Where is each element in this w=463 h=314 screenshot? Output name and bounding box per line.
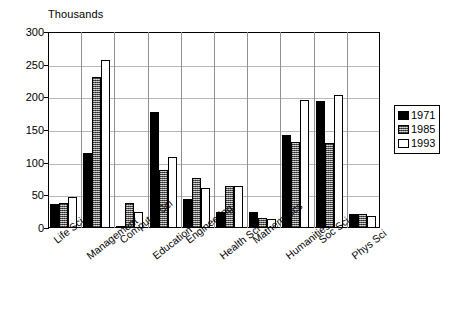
y-axis-tick bbox=[44, 228, 49, 229]
bar[interactable] bbox=[83, 153, 92, 228]
bar-group bbox=[214, 32, 247, 228]
legend-item[interactable]: 1993 bbox=[398, 136, 435, 150]
legend-label: 1971 bbox=[411, 109, 435, 121]
legend-label: 1993 bbox=[411, 137, 435, 149]
bar-group bbox=[114, 32, 147, 228]
legend-swatch-icon bbox=[398, 125, 409, 134]
bar-group bbox=[81, 32, 114, 228]
bar-group bbox=[181, 32, 214, 228]
group-separator bbox=[181, 32, 182, 228]
group-separator bbox=[280, 32, 281, 228]
group-separator bbox=[247, 32, 248, 228]
group-separator bbox=[214, 32, 215, 228]
y-axis-tick-label: 0 bbox=[4, 222, 44, 234]
bar[interactable] bbox=[101, 60, 110, 228]
y-axis-labels: 050100150200250300 bbox=[0, 32, 44, 228]
bar[interactable] bbox=[50, 204, 59, 228]
legend-item[interactable]: 1985 bbox=[398, 122, 435, 136]
legend-swatch-icon bbox=[398, 139, 409, 148]
bar[interactable] bbox=[92, 77, 101, 228]
bar-group bbox=[314, 32, 347, 228]
bar[interactable] bbox=[234, 186, 243, 228]
group-separator bbox=[148, 32, 149, 228]
legend-label: 1985 bbox=[411, 123, 435, 135]
bar[interactable] bbox=[316, 101, 325, 228]
bars-layer bbox=[48, 32, 380, 228]
axis-unit-label: Thousands bbox=[48, 8, 103, 20]
legend: 1971 1985 1993 bbox=[394, 105, 440, 154]
bar[interactable] bbox=[325, 143, 334, 228]
y-axis-tick-label: 300 bbox=[4, 26, 44, 38]
group-separator bbox=[347, 32, 348, 228]
bar-chart: Thousands 050100150200250300 Life SciMan… bbox=[0, 0, 463, 314]
bar-group bbox=[48, 32, 81, 228]
legend-swatch-icon bbox=[398, 111, 409, 120]
bar[interactable] bbox=[192, 178, 201, 228]
bar[interactable] bbox=[334, 95, 343, 228]
bar-group bbox=[347, 32, 380, 228]
x-axis-category-label: Phys Sci bbox=[349, 227, 389, 262]
group-separator bbox=[114, 32, 115, 228]
y-axis-tick-label: 150 bbox=[4, 124, 44, 136]
y-axis-tick-label: 250 bbox=[4, 59, 44, 71]
bar[interactable] bbox=[349, 214, 358, 228]
group-separator bbox=[314, 32, 315, 228]
bar[interactable] bbox=[168, 157, 177, 228]
y-axis-tick-label: 50 bbox=[4, 189, 44, 201]
bar[interactable] bbox=[358, 214, 367, 228]
group-separator bbox=[81, 32, 82, 228]
legend-item[interactable]: 1971 bbox=[398, 108, 435, 122]
y-axis-tick-label: 100 bbox=[4, 157, 44, 169]
bar-group bbox=[247, 32, 280, 228]
y-axis-tick-label: 200 bbox=[4, 91, 44, 103]
bar[interactable] bbox=[367, 216, 376, 228]
